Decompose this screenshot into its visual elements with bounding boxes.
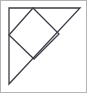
geometry-diagram	[0, 0, 87, 93]
inscribed-rotated-square	[9, 8, 59, 59]
figure-container	[0, 0, 87, 93]
